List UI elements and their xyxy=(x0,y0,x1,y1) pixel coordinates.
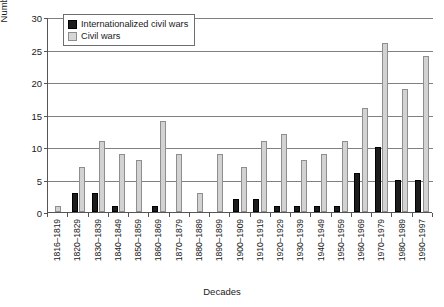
bar-civil-wars xyxy=(119,154,125,213)
x-axis-label-cell: 1960–1969 xyxy=(351,219,371,279)
x-axis-tick-label: 1900–1909 xyxy=(235,219,245,261)
x-axis-tick xyxy=(169,213,170,217)
bar-civil-wars xyxy=(402,89,408,213)
bar-internationalized xyxy=(92,193,98,213)
y-axis-tick-label: 5 xyxy=(37,175,42,186)
y-axis-tick-label: 30 xyxy=(31,13,42,24)
x-axis-label-cell: 1870–1879 xyxy=(169,219,189,279)
bar-group xyxy=(68,18,88,212)
bar-civil-wars xyxy=(423,56,429,212)
bar-civil-wars xyxy=(79,167,85,213)
bar-group xyxy=(48,18,68,212)
bar-civil-wars xyxy=(99,141,105,213)
x-axis-tick xyxy=(412,213,413,217)
legend-swatch-dark-icon xyxy=(68,20,77,29)
bar-group xyxy=(189,18,209,212)
bar-internationalized xyxy=(375,147,381,212)
bar-group xyxy=(290,18,310,212)
x-axis-tick xyxy=(250,213,251,217)
x-axis-tick xyxy=(391,213,392,217)
x-axis-tick-label: 1850–1859 xyxy=(133,219,143,261)
bar-group xyxy=(230,18,250,212)
y-axis-tick-label: 15 xyxy=(31,110,42,121)
bar-group xyxy=(412,18,432,212)
legend-label: Internationalized civil wars xyxy=(81,18,188,30)
bar-internationalized xyxy=(112,206,118,213)
x-axis-tick xyxy=(270,213,271,217)
bar-group xyxy=(169,18,189,212)
x-axis-tick-label: 1960–1969 xyxy=(356,219,366,261)
x-axis-tick-label: 1830–1839 xyxy=(93,219,103,261)
x-axis-tick xyxy=(432,213,433,217)
x-axis-tick-label: 1860–1869 xyxy=(153,219,163,261)
x-axis-label-cell: 1900–1909 xyxy=(229,219,249,279)
bar-internationalized xyxy=(152,206,158,213)
x-axis-label-cell: 1930–1939 xyxy=(290,219,310,279)
x-axis-tick-label: 1910–1919 xyxy=(255,219,265,261)
x-axis-label-cell: 1980–1989 xyxy=(392,219,412,279)
x-axis-tick xyxy=(290,213,291,217)
bar-internationalized xyxy=(415,180,421,213)
bar-internationalized xyxy=(72,193,78,213)
bar-group xyxy=(371,18,391,212)
plot-area: 051015202530 xyxy=(47,18,432,213)
bar-group xyxy=(210,18,230,212)
x-axis-label-cell: 1880–1889 xyxy=(189,219,209,279)
x-axis-tick xyxy=(229,213,230,217)
x-axis-label-cell: 1850–1859 xyxy=(128,219,148,279)
bar-group xyxy=(311,18,331,212)
x-axis-tick xyxy=(148,213,149,217)
x-axis-label-cell: 1950–1959 xyxy=(331,219,351,279)
x-axis-label-cell: 1820–1829 xyxy=(67,219,87,279)
x-axis-label-cell: 1860–1869 xyxy=(148,219,168,279)
x-axis-tick-label: 1890–1899 xyxy=(214,219,224,261)
x-axis-tick xyxy=(47,213,48,217)
x-axis-label-cell: 1830–1839 xyxy=(88,219,108,279)
x-axis-tick-label: 1880–1889 xyxy=(194,219,204,261)
x-axis-label-cell: 1840–1849 xyxy=(108,219,128,279)
bar-group xyxy=(149,18,169,212)
x-axis-label-cell: 1816–1819 xyxy=(47,219,67,279)
bar-civil-wars xyxy=(136,160,142,212)
x-axis-tick-label: 1970–1979 xyxy=(376,219,386,261)
x-axis-tick-label: 1990–1997 xyxy=(417,219,427,261)
x-axis-label-cell: 1990–1997 xyxy=(412,219,432,279)
bar-group xyxy=(270,18,290,212)
bar-internationalized xyxy=(253,199,259,212)
x-axis-label-cell: 1970–1979 xyxy=(371,219,391,279)
x-axis-tick xyxy=(128,213,129,217)
bar-group xyxy=(331,18,351,212)
bar-group xyxy=(250,18,270,212)
bar-civil-wars xyxy=(382,43,388,212)
x-axis-label-cell: 1910–1919 xyxy=(250,219,270,279)
bar-civil-wars xyxy=(301,160,307,212)
x-axis-label-cell: 1940–1949 xyxy=(310,219,330,279)
bar-civil-wars xyxy=(362,108,368,212)
y-axis-tick-label: 0 xyxy=(37,208,42,219)
bar-civil-wars xyxy=(321,154,327,213)
y-axis-tick-label: 25 xyxy=(31,45,42,56)
bar-internationalized xyxy=(294,206,300,213)
x-axis-label-cell: 1920–1929 xyxy=(270,219,290,279)
bar-group xyxy=(129,18,149,212)
legend-item-civil-wars: Civil wars xyxy=(68,30,188,42)
x-axis-tick-label: 1820–1829 xyxy=(72,219,82,261)
bar-group xyxy=(109,18,129,212)
x-axis-label-cell: 1890–1899 xyxy=(209,219,229,279)
legend: Internationalized civil wars Civil wars xyxy=(63,14,195,46)
bar-internationalized xyxy=(354,173,360,212)
x-axis-tick-label: 1940–1949 xyxy=(316,219,326,261)
x-axis-tick xyxy=(351,213,352,217)
x-axis-tick xyxy=(209,213,210,217)
y-axis-tick-label: 20 xyxy=(31,78,42,89)
x-axis-tick-label: 1816–1819 xyxy=(52,219,62,261)
bar-civil-wars xyxy=(55,206,61,213)
bar-civil-wars xyxy=(241,167,247,213)
bar-civil-wars xyxy=(261,141,267,213)
x-axis-tick xyxy=(331,213,332,217)
x-axis-ticks xyxy=(47,213,432,217)
bar-civil-wars xyxy=(197,193,203,213)
y-axis-title: Number of war onsets xyxy=(0,0,9,46)
x-axis-tick-label: 1930–1939 xyxy=(295,219,305,261)
x-axis-tick xyxy=(371,213,372,217)
